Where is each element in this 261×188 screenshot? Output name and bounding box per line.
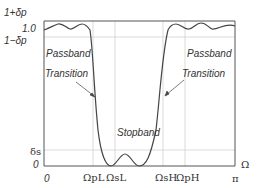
y-label-zero: 0 — [33, 159, 39, 170]
y-label-1-plus-deltap: 1+δp — [4, 7, 27, 18]
x-label-omega-pH: ΩpH — [176, 172, 200, 183]
arrow-right-head — [165, 91, 169, 96]
x-label-omega-sL: ΩsL — [106, 172, 126, 183]
x-label-omega-sH: ΩsH — [155, 172, 177, 183]
x-axis-label-omega: Ω — [241, 159, 249, 170]
label-transition-right: Transition — [182, 68, 226, 79]
x-label-pi: π — [232, 173, 239, 184]
label-passband-left: Passband — [46, 48, 91, 59]
arrow-right — [166, 80, 184, 95]
x-label-omega-pL: ΩpL — [83, 172, 105, 183]
label-stopband: Stopband — [117, 127, 160, 138]
y-label-1: 1.0 — [22, 23, 36, 34]
axes — [44, 21, 235, 166]
y-label-1-minus-deltap: 1−δp — [4, 35, 27, 46]
x-label-zero: 0 — [44, 173, 50, 184]
grid-lines — [44, 21, 235, 166]
label-transition-left: Transition — [45, 68, 89, 79]
y-label-deltas: δs — [30, 146, 41, 157]
filter-response-diagram: 1+δp 1.0 1−δp δs 0 0 ΩpL ΩsL ΩsH ΩpH π Ω… — [0, 0, 261, 188]
transition-arrows — [76, 80, 184, 97]
response-curve — [44, 23, 235, 166]
label-passband-right: Passband — [187, 48, 232, 59]
